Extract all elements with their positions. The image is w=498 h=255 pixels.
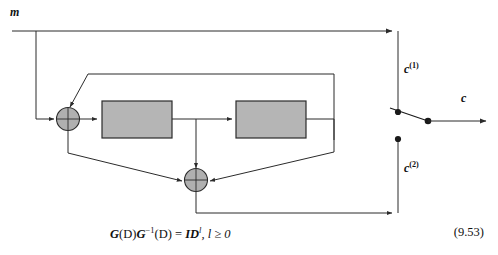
equation-row: G(D)G−1(D) = IDl, l ≥ 0 (9.53) [0, 225, 498, 249]
output-label-c2: c(2) [404, 161, 419, 174]
adder-1 [57, 108, 80, 131]
figure-container: m c(1) c(2) c G(D)G−1(D) = IDl, l ≥ 0 (9… [0, 0, 498, 255]
equation-expression: G(D)G−1(D) = IDl, l ≥ 0 [110, 225, 231, 242]
delay-block-1 [102, 101, 172, 138]
eq-d1: (D) [119, 227, 136, 241]
eq-d2: (D) [154, 227, 171, 241]
encoder-block-diagram [0, 0, 498, 255]
eq-id: ID [185, 227, 199, 241]
equation-number: (9.53) [454, 225, 484, 240]
input-label-m: m [10, 6, 19, 18]
eq-g1: G [110, 227, 119, 241]
input-bus-m [12, 31, 398, 119]
adder-2 [185, 169, 208, 192]
output-label-c-base: c [461, 91, 466, 105]
adder2-output-bus [196, 140, 398, 213]
switch-contact-c2[interactable] [395, 136, 401, 142]
delay-block-2 [236, 101, 306, 138]
output-label-c: c [461, 92, 466, 104]
output-label-c2-sup: (2) [409, 160, 419, 169]
output-commutator-switch[interactable] [390, 108, 486, 142]
input-label-m-text: m [10, 5, 19, 19]
output-label-c1-sup: (1) [409, 61, 419, 70]
eq-equals: = [175, 227, 182, 241]
eq-tail: , l ≥ 0 [201, 227, 230, 241]
output-label-c1: c(1) [404, 62, 419, 75]
switch-blade[interactable] [390, 108, 428, 121]
